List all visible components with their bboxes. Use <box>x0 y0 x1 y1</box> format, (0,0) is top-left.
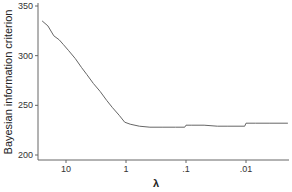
y-axis: 200250300350 <box>18 1 38 160</box>
y-tick-label: 200 <box>18 150 33 160</box>
y-tick-label: 350 <box>18 1 33 11</box>
x-axis-title: λ <box>153 177 159 189</box>
y-axis-title: Bayesian information criterion <box>2 10 14 155</box>
y-tick-label: 300 <box>18 51 33 61</box>
x-axis: 101.1.01 <box>38 160 289 174</box>
bic-curve <box>42 21 288 127</box>
x-tick-label: 10 <box>61 164 71 174</box>
bic-chart: 200250300350 101.1.01 Bayesian informati… <box>0 0 292 192</box>
x-tick-label: .01 <box>240 164 253 174</box>
x-tick-label: .1 <box>182 164 190 174</box>
x-tick-label: 1 <box>123 164 128 174</box>
y-tick-label: 250 <box>18 100 33 110</box>
